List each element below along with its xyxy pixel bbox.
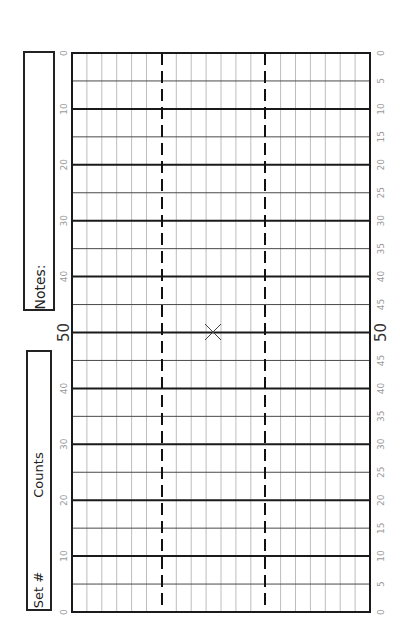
yard-label-right: 5	[376, 78, 386, 84]
yard-label-right: 5	[376, 581, 386, 587]
right-yard-labels: 05101520253035404550454035302520151050	[372, 50, 390, 615]
yard-label-right: 40	[376, 271, 386, 283]
yard-label-right: 10	[376, 550, 386, 562]
yard-label-left: 10	[59, 550, 69, 562]
yard-label-right: 35	[376, 243, 386, 254]
yard-label-right: 45	[376, 355, 386, 366]
yard-label-left: 30	[59, 215, 69, 227]
yard-label-right: 0	[376, 609, 386, 615]
notes-label: Notes:	[30, 259, 50, 315]
yard-label-right: 45	[376, 299, 386, 310]
counts-label: Counts	[30, 440, 48, 510]
yard-label-left: 40	[59, 382, 69, 394]
yard-label-right: 0	[376, 50, 386, 56]
yard-label-right: 15	[376, 522, 386, 533]
yard-label-left: 30	[59, 438, 69, 450]
yard-label-left: 20	[59, 159, 69, 171]
yard-label-left: 0	[59, 609, 69, 615]
yard-label-right: 20	[376, 494, 386, 506]
yard-label-right: 25	[376, 467, 386, 478]
yard-label-left: 20	[59, 494, 69, 506]
field-grid: 01020304050403020100 0510152025303540455…	[0, 0, 400, 643]
yard-label-right: 15	[376, 131, 386, 142]
yard-label-right: 25	[376, 187, 386, 198]
midfield-label-right: 50	[372, 323, 390, 342]
set-number-label: Set #	[30, 560, 48, 620]
yard-label-left: 0	[59, 50, 69, 56]
yard-label-right: 10	[376, 103, 386, 115]
yard-label-right: 20	[376, 159, 386, 171]
yard-label-left: 10	[59, 103, 69, 115]
yard-label-left: 40	[59, 271, 69, 283]
left-yard-labels: 01020304050403020100	[55, 50, 73, 615]
yard-label-right: 35	[376, 411, 386, 422]
midfield-label-left: 50	[55, 323, 73, 342]
yard-label-right: 30	[376, 215, 386, 227]
yard-label-right: 40	[376, 382, 386, 394]
yard-label-right: 30	[376, 438, 386, 450]
